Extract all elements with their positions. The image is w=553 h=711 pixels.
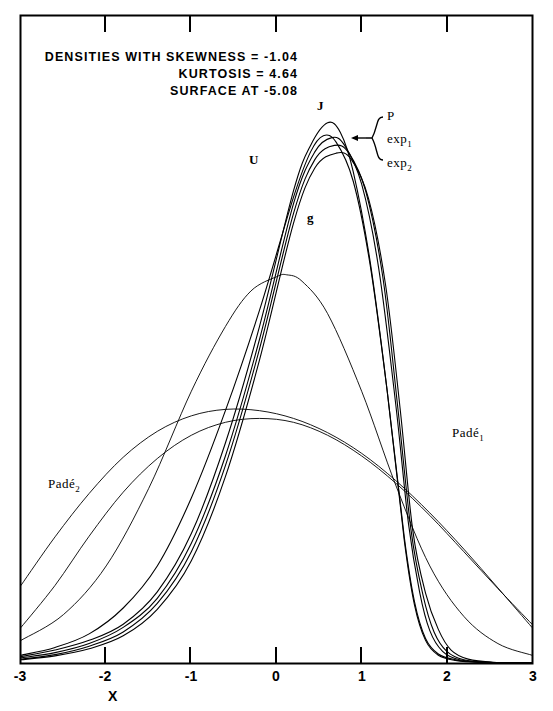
xtick-label-1: -2 — [90, 668, 120, 684]
curve-label-j: J — [317, 98, 324, 114]
x-axis-title: X — [108, 688, 117, 704]
xtick-label-6: 3 — [518, 668, 548, 684]
plot-frame — [21, 16, 533, 664]
curve-p — [21, 137, 532, 663]
legend-label-exp2: exp2 — [387, 155, 412, 173]
legend-label-exp1: exp1 — [387, 131, 412, 149]
title-line-3: SURFACE AT -5.08 — [32, 84, 298, 98]
legend-arrow-icon — [351, 135, 366, 141]
legend-exp2-text: exp — [387, 155, 407, 170]
curve-exp1 — [21, 145, 532, 663]
data-curves — [21, 122, 532, 663]
pade2-sub: 2 — [75, 484, 80, 494]
legend-exp1-sub: 1 — [407, 139, 412, 149]
chart-canvas — [0, 0, 553, 711]
curve-pade2 — [21, 418, 532, 627]
curve-u — [21, 135, 532, 663]
curve-exp2 — [21, 153, 532, 663]
legend-label-p: P — [387, 108, 395, 124]
legend-exp2-sub: 2 — [407, 163, 412, 173]
top-axis-ticks — [105, 16, 447, 32]
pade1-sub: 1 — [479, 433, 484, 443]
curve-g — [21, 274, 532, 655]
xtick-label-3: 0 — [261, 668, 291, 684]
pade1-text: Padé — [452, 425, 479, 440]
title-line-1: DENSITIES WITH SKEWNESS = -1.04 — [32, 50, 298, 64]
curve-label-pade1: Padé1 — [452, 425, 484, 443]
curve-label-u: U — [249, 152, 259, 168]
xtick-label-4: 1 — [347, 668, 377, 684]
pade2-text: Padé — [48, 476, 75, 491]
xtick-label-5: 2 — [432, 668, 462, 684]
bottom-axis-ticks — [105, 647, 447, 663]
curve-j — [21, 122, 532, 663]
legend-brace — [366, 117, 383, 160]
curve-label-g: g — [307, 210, 314, 226]
figure-title-block: DENSITIES WITH SKEWNESS = -1.04 KURTOSIS… — [32, 50, 298, 101]
xtick-label-0: -3 — [5, 668, 35, 684]
title-line-2: KURTOSIS = 4.64 — [32, 67, 298, 81]
xtick-label-2: -1 — [176, 668, 206, 684]
legend-exp1-text: exp — [387, 131, 407, 146]
curve-label-pade2: Padé2 — [48, 476, 80, 494]
figure-container: DENSITIES WITH SKEWNESS = -1.04 KURTOSIS… — [0, 0, 553, 711]
